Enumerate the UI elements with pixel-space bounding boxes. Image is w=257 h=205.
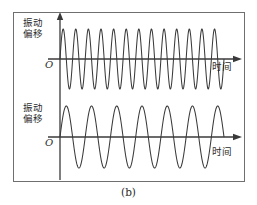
x-axis-label-bottom: 时间 [212, 146, 232, 157]
y-axis-label-bottom-line2: 偏移 [23, 114, 67, 125]
y-axis-label-top-line1: 振动 [23, 18, 67, 29]
plot-panel-top: 振动 偏移 O 时间 [14, 13, 246, 98]
y-axis-label-top-line2: 偏移 [23, 29, 67, 40]
y-axis-label-top: 振动 偏移 [23, 18, 67, 39]
origin-label-top: O [45, 60, 53, 70]
origin-label-bottom: O [45, 138, 53, 148]
figure-frame: 振动 偏移 O 时间 振动 偏移 O 时间 [13, 12, 245, 182]
x-axis-label-top: 时间 [212, 61, 232, 72]
y-axis-label-bottom: 振动 偏移 [23, 103, 67, 124]
figure-caption: (b) [0, 186, 257, 198]
plot-panel-bottom: 振动 偏移 O 时间 [14, 98, 246, 183]
y-axis-label-bottom-line1: 振动 [23, 103, 67, 114]
